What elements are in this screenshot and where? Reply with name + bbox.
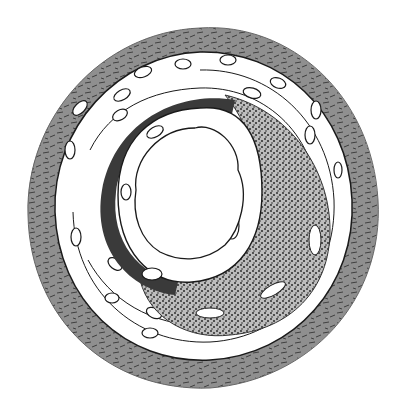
illustration-stage	[0, 0, 394, 403]
lumen	[135, 127, 243, 259]
artery-illustration	[0, 0, 394, 403]
